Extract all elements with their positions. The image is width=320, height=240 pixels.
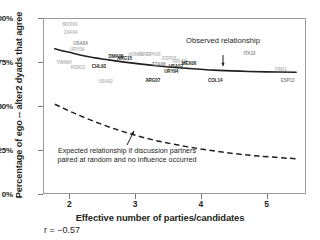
x-tick-label: 2 [67, 199, 72, 209]
x-tick-label: 5 [264, 199, 269, 209]
scatter-point-label: CPV06 [146, 52, 160, 57]
scatter-point-label: ZAF04 [64, 30, 78, 35]
scatter-point-label: ARG07 [145, 78, 160, 83]
x-tick-mark [201, 194, 202, 199]
scatter-point-label: ITA13 [244, 51, 256, 56]
scatter-point-label: TWN04 [56, 60, 71, 65]
x-tick-mark [69, 194, 70, 199]
y-tick-label: 0% [0, 190, 13, 199]
y-tick-label: 50% [0, 102, 13, 111]
x-axis-label: Effective number of parties/candidates [0, 212, 320, 223]
y-tick-mark [38, 194, 43, 195]
y-axis-label: Percentage of ego -- alter2 dyads that a… [14, 0, 24, 210]
scatter-point-label: MEX06 [182, 60, 197, 65]
scatter-point-label: MOZ04 [63, 22, 78, 27]
x-tick-mark [267, 194, 268, 199]
scatter-point-label: URY94 [164, 68, 178, 73]
chart-figure: Percentage of ego -- alter2 dyads that a… [0, 0, 320, 240]
y-tick-label: 100% [0, 14, 13, 23]
observed-annotation: Observed relationship [186, 36, 260, 46]
x-tick-label: 3 [133, 199, 138, 209]
x-tick-label: 4 [198, 199, 203, 209]
correlation-stat: r = −0.57 [44, 225, 80, 235]
scatter-point-label: FIN11 [275, 67, 287, 72]
expected-annotation: Expected relationship if discussion part… [52, 147, 202, 164]
y-tick-label: 75% [0, 58, 13, 67]
scatter-point-label: KEN13 [71, 65, 85, 70]
scatter-point-label: TZA08 [152, 61, 166, 66]
scatter-point-label: ESP13 [281, 78, 295, 83]
y-tick-label: 25% [0, 146, 13, 155]
scatter-point-label: CHL93 [92, 64, 106, 69]
scatter-point-label: USA04 [73, 40, 87, 45]
scatter-point-label: USA02 [98, 79, 112, 84]
scatter-point-label: URY09 [70, 46, 84, 51]
x-tick-mark [135, 194, 136, 199]
scatter-point-label: COL14 [208, 78, 222, 83]
